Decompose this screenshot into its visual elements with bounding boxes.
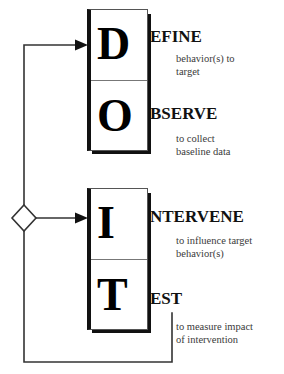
drop-cap-t: T	[97, 272, 128, 318]
decision-diamond-icon	[12, 205, 36, 231]
step-label-observe: BSERVE	[150, 105, 217, 122]
cell-intervene: I	[91, 189, 147, 260]
step-description-test: to measure impact of intervention	[176, 320, 253, 346]
step-description-intervene: to influence target behavior(s)	[176, 234, 252, 260]
connector-line-to-define	[24, 45, 82, 205]
step-label-intervene: NTERVENE	[150, 208, 244, 225]
process-box-intervene-test: I T	[87, 188, 148, 330]
drop-cap-d: D	[97, 21, 130, 67]
step-description-observe: to collect baseline data	[176, 132, 231, 158]
cell-observe: O	[91, 81, 147, 152]
step-label-test: EST	[150, 290, 182, 307]
drop-cap-o: O	[97, 93, 133, 139]
cell-define: D	[91, 10, 147, 81]
process-box-define-observe: D O	[87, 9, 148, 151]
drop-cap-i: I	[97, 200, 115, 246]
cell-test: T	[91, 260, 147, 331]
step-label-define: EFINE	[150, 28, 202, 45]
doit-flowchart: D O I T EFINE behavior(s) to target BSER…	[0, 0, 284, 374]
step-description-define: behavior(s) to target	[176, 52, 235, 78]
